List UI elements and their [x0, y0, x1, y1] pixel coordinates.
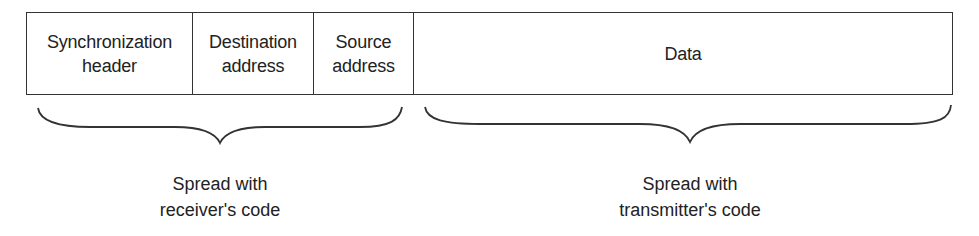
- brace-receiver-icon: [38, 107, 402, 143]
- field-destination-address: Destination address: [193, 13, 314, 94]
- field-source-address: Source address: [314, 13, 414, 94]
- brace-transmitter-icon: [425, 105, 951, 142]
- field-data: Data: [414, 13, 952, 94]
- packet-frame: Synchronization header Destination addre…: [26, 12, 953, 95]
- caption-receiver-code: Spread with receiver's code: [120, 171, 320, 223]
- caption-transmitter-code: Spread with transmitter's code: [590, 171, 790, 223]
- field-synchronization-header: Synchronization header: [27, 13, 193, 94]
